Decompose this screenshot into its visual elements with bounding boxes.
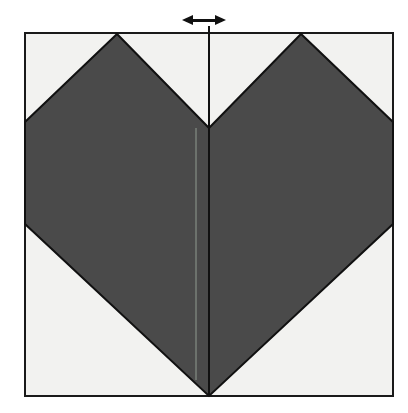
origami-figure-container: Origami heart fold diagram [0, 0, 408, 413]
arrow-shaft [186, 19, 221, 22]
origami-diagram-svg [0, 0, 408, 413]
